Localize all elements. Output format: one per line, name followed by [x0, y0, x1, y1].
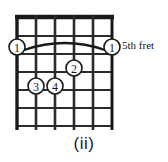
fret-position-label: 5th fret — [122, 39, 154, 51]
finger-marker-2: 2 — [66, 60, 82, 76]
finger-marker-1-low: 1 — [9, 39, 25, 55]
finger-marker-1-high: 1 — [104, 39, 120, 55]
finger-marker-3: 3 — [28, 78, 44, 94]
finger-marker-label: 1 — [14, 41, 20, 55]
finger-marker-label: 2 — [71, 62, 77, 76]
fretboard-graphic: 1 1 2 3 4 — [0, 0, 168, 134]
guitar-chord-diagram: 1 1 2 3 4 5th fret (ii) — [0, 0, 168, 162]
finger-marker-label: 4 — [52, 80, 58, 94]
finger-marker-label: 1 — [109, 41, 115, 55]
figure-caption: (ii) — [0, 134, 168, 154]
finger-marker-label: 3 — [33, 80, 39, 94]
finger-marker-4: 4 — [47, 78, 63, 94]
